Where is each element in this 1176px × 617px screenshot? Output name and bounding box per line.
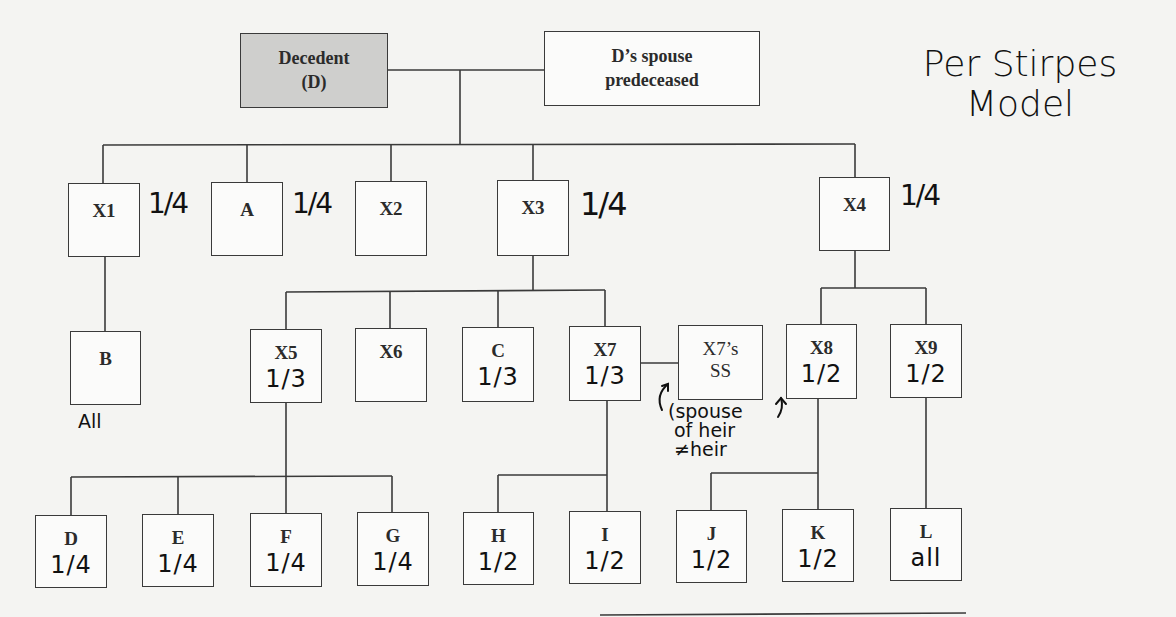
- share-x3: 1/4: [580, 190, 626, 218]
- title-line-1: Per Stirpes: [890, 44, 1150, 84]
- node-share: 1/4: [36, 552, 106, 578]
- spouse-not-heir-annotation: (spouse of heir ≠heir: [668, 402, 743, 459]
- node-label: X2: [356, 198, 426, 220]
- node-share: 1/2: [783, 546, 853, 572]
- node-label: F: [251, 526, 321, 548]
- node-label: G: [358, 525, 428, 547]
- node-x9: X9 1/2: [890, 324, 962, 398]
- node-x3: X3: [497, 180, 569, 256]
- decedent-node: Decedent (D): [240, 33, 388, 108]
- node-label: C: [463, 340, 533, 362]
- node-label: J: [677, 523, 746, 545]
- node-label: X9: [891, 337, 961, 359]
- node-share: 1/2: [570, 548, 640, 574]
- spouse-label: D’s spouse: [545, 44, 759, 68]
- node-x4: X4: [819, 177, 890, 251]
- spouse-sublabel: predeceased: [545, 68, 759, 92]
- node-x6: X6: [355, 328, 427, 402]
- node-share: all: [891, 545, 961, 571]
- node-x8: X8 1/2: [786, 324, 857, 399]
- node-b: B: [70, 331, 141, 405]
- node-share: 1/3: [570, 363, 640, 389]
- share-b: All: [78, 410, 102, 432]
- node-j: J 1/2: [676, 510, 747, 583]
- node-label: X7’s: [679, 338, 762, 360]
- node-label: X6: [356, 341, 426, 363]
- share-x4: 1/4: [900, 182, 939, 210]
- diagram-title-note: Per Stirpes Model: [890, 44, 1150, 124]
- node-label: X7: [570, 339, 640, 361]
- node-label: E: [143, 527, 213, 549]
- title-line-2: Model: [890, 84, 1150, 124]
- decedent-sublabel: (D): [241, 70, 387, 94]
- node-label: I: [570, 524, 640, 546]
- node-label: A: [212, 199, 282, 221]
- annotation-line-3: ≠heir: [668, 440, 743, 459]
- node-label: D: [36, 528, 106, 550]
- node-g: G 1/4: [357, 512, 429, 586]
- node-share: 1/2: [787, 361, 856, 387]
- node-x2: X2: [355, 181, 427, 256]
- node-share: 1/4: [251, 550, 321, 576]
- share-x1: 1/4: [148, 190, 187, 218]
- decedent-label: Decedent: [241, 46, 387, 70]
- node-x7: X7 1/3: [569, 326, 641, 401]
- node-share: 1/3: [251, 366, 321, 392]
- node-f: F 1/4: [250, 513, 322, 587]
- node-label: X5: [251, 342, 321, 364]
- node-d: D 1/4: [35, 515, 107, 588]
- node-k: K 1/2: [782, 509, 854, 582]
- node-label: X1: [69, 200, 139, 222]
- node-c: C 1/3: [462, 327, 534, 402]
- node-share: 1/2: [677, 547, 746, 573]
- node-share: 1/4: [358, 549, 428, 575]
- share-a: 1/4: [292, 190, 331, 218]
- node-i: I 1/2: [569, 511, 641, 584]
- node-share: 1/2: [464, 549, 533, 575]
- node-label: H: [464, 525, 533, 547]
- node-e: E 1/4: [142, 514, 214, 587]
- node-label: L: [891, 521, 961, 543]
- node-label: X4: [820, 194, 889, 216]
- node-l: L all: [890, 508, 962, 581]
- node-label: X3: [498, 197, 568, 219]
- spouse-node: D’s spouse predeceased: [544, 31, 760, 106]
- node-x1: X1: [68, 183, 140, 257]
- node-share: 1/3: [463, 364, 533, 390]
- node-x7-stepspouse: X7’s SS: [678, 325, 763, 400]
- node-sublabel: SS: [679, 360, 762, 382]
- node-label: K: [783, 522, 853, 544]
- arrow-to-x7-icon: [660, 384, 668, 410]
- node-label: B: [71, 348, 140, 370]
- node-x5: X5 1/3: [250, 329, 322, 403]
- node-label: X8: [787, 337, 856, 359]
- node-h: H 1/2: [463, 512, 534, 585]
- node-share: 1/2: [891, 361, 961, 387]
- node-a: A: [211, 182, 283, 256]
- node-share: 1/4: [143, 551, 213, 577]
